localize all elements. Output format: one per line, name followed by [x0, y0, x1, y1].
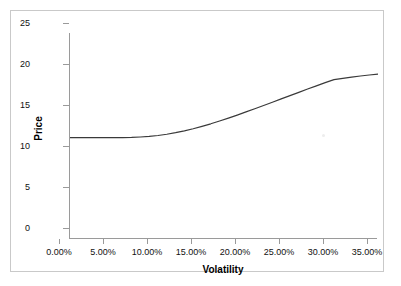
plot-area [69, 33, 377, 239]
x-axis-label-35: 35.00% [339, 247, 395, 258]
x-axis-tick [103, 239, 104, 244]
y-axis-label-10: 10 [0, 141, 30, 151]
x-axis-tick [323, 239, 324, 244]
y-axis-label-25: 25 [0, 18, 30, 28]
x-axis-tick [367, 239, 368, 244]
x-axis-tick [147, 239, 148, 244]
x-axis-tick [235, 239, 236, 244]
chart-outer-frame: 25 20 15 10 5 0 0.00% 5.00% 10.00% 15.00… [10, 10, 384, 272]
scan-artifact-speck [322, 134, 325, 137]
x-axis-tick [191, 239, 192, 244]
x-axis-tick [279, 239, 280, 244]
y-axis-label-15: 15 [0, 100, 30, 110]
price-volatility-line [70, 33, 378, 239]
y-axis-label-5: 5 [0, 182, 30, 192]
y-axis-title: Price [33, 94, 44, 164]
chart-figure: 25 20 15 10 5 0 0.00% 5.00% 10.00% 15.00… [0, 0, 401, 286]
y-axis-tick [63, 23, 69, 24]
x-axis-tick [59, 239, 60, 244]
y-axis-label-20: 20 [0, 59, 30, 69]
x-axis-title: Volatility [69, 264, 377, 275]
y-axis-label-0: 0 [0, 223, 30, 233]
